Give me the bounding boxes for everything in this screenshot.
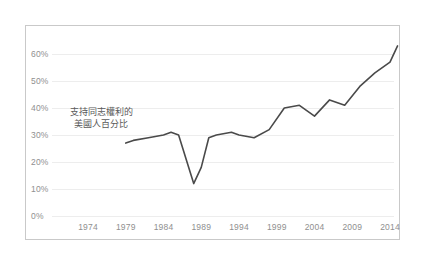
x-tick-1974: 1974 [78,222,98,232]
y-tick-40%: 40% [31,103,49,113]
series-annotation-line-1: 支持同志權利的 [70,107,133,117]
y-tick-30%: 30% [31,130,49,140]
series-annotation-line-2: 美國人百分比 [62,118,140,130]
x-tick-1984: 1984 [154,222,174,232]
y-tick-10%: 10% [31,184,49,194]
x-tick-1999: 1999 [267,222,287,232]
data-series-group [126,46,398,184]
x-tick-1979: 1979 [116,222,136,232]
y-tick-60%: 60% [31,49,49,59]
y-tick-0%: 0% [31,211,44,221]
chart-figure: 0%10%20%30%40%50%60% 1974197919841989199… [0,0,424,262]
y-tick-50%: 50% [31,76,49,86]
gridlines-group [52,54,394,216]
series-annotation-label: 支持同志權利的 美國人百分比 [62,106,140,130]
x-tick-2004: 2004 [305,222,325,232]
x-tick-2009: 2009 [342,222,362,232]
y-tick-20%: 20% [31,157,49,167]
data-series-line-0 [126,46,398,184]
x-tick-1989: 1989 [191,222,211,232]
x-tick-1994: 1994 [229,222,249,232]
x-tick-2014: 2014 [380,222,400,232]
